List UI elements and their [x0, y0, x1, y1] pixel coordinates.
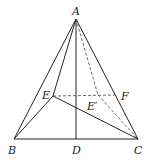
- segment-ae-prime: [76, 19, 98, 95]
- label-f: F: [120, 90, 129, 103]
- segment-ab: [14, 19, 76, 139]
- label-b: B: [7, 144, 16, 157]
- segment-ef: [53, 95, 116, 96]
- segment-be: [14, 96, 53, 139]
- label-c: C: [134, 144, 143, 157]
- label-e-prime: E′: [86, 100, 98, 113]
- geometry-diagram: A B C D E E′ F: [0, 0, 153, 163]
- label-e: E: [41, 89, 50, 102]
- label-d: D: [71, 144, 81, 157]
- label-a: A: [71, 5, 80, 18]
- segment-e-prime-c: [98, 95, 138, 139]
- segment-ac: [76, 19, 138, 139]
